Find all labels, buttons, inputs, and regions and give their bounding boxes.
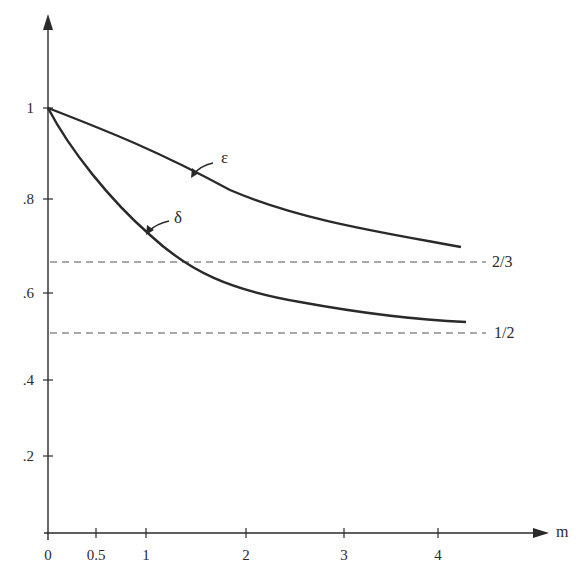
y-tick-label-0-6: .6: [4, 286, 34, 301]
x-tick-label-2: 2: [231, 548, 261, 563]
y-axis-arrow-icon: [43, 14, 53, 30]
x-tick-label-4: 4: [423, 548, 453, 563]
delta-label: δ: [174, 209, 182, 226]
chart-canvas: [0, 0, 588, 585]
y-tick-label-0-4: .4: [4, 373, 34, 388]
epsilon-label: ε: [221, 149, 228, 166]
y-tick-label-0-8: .8: [4, 192, 34, 207]
one-half-label: 1/2: [494, 325, 514, 341]
x-tick-label-3: 3: [329, 548, 359, 563]
epsilon-curve: [48, 108, 461, 247]
x-tick-label-1: 1: [131, 548, 161, 563]
x-tick-label-0: 0: [33, 548, 63, 563]
x-tick-label-0-5: 0.5: [81, 548, 111, 563]
y-tick-label-0-2: .2: [4, 449, 34, 464]
y-tick-label-1: 1: [4, 101, 34, 116]
two-thirds-label: 2/3: [492, 254, 512, 270]
x-axis-arrow-icon: [533, 528, 549, 538]
delta-curve: [48, 108, 466, 322]
x-axis-label: m: [556, 524, 568, 540]
delta-pointer-arrow-icon: [146, 221, 169, 235]
